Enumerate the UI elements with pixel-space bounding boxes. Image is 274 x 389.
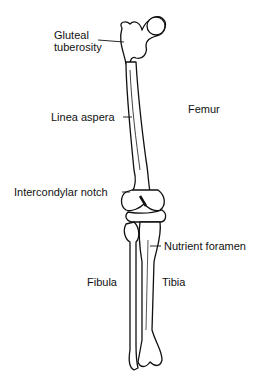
label-line: tuberosity [54, 41, 102, 53]
tibia-plateau [126, 210, 166, 222]
label-gluteal-tuberosity: Gluteal tuberosity [54, 29, 102, 53]
label-fibula: Fibula [87, 276, 117, 288]
label-tibia: Tibia [162, 276, 185, 288]
femur-shaft [126, 62, 150, 192]
label-femur: Femur [188, 103, 220, 115]
fibula [124, 222, 138, 370]
tibia [138, 222, 162, 367]
femur-head [147, 17, 165, 35]
label-intercondylar-notch: Intercondylar notch [14, 186, 108, 198]
label-linea-aspera: Linea aspera [51, 111, 115, 123]
label-line: Gluteal [54, 29, 102, 41]
label-nutrient-foramen: Nutrient foramen [164, 240, 246, 252]
